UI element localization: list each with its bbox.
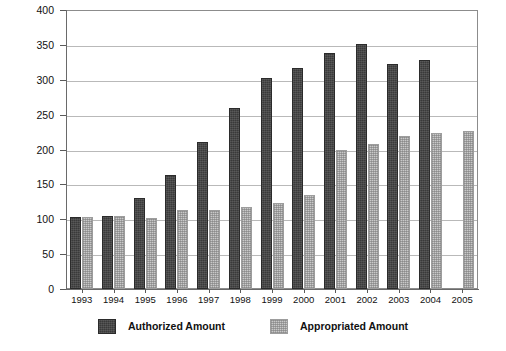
bar-authorized-2001 xyxy=(324,53,335,289)
y-tick-label-350: 350 xyxy=(6,40,54,50)
x-tick-mark-1999 xyxy=(272,289,273,293)
bar-appropriated-1994 xyxy=(114,216,125,289)
y-tick-mark-0 xyxy=(60,289,66,290)
x-tick-mark-2000 xyxy=(304,289,305,293)
bar-appropriated-2002 xyxy=(368,144,379,289)
bar-group xyxy=(419,10,442,289)
x-tick-label-2005: 2005 xyxy=(442,294,482,305)
bar-appropriated-1996 xyxy=(177,210,188,289)
legend-label-authorized: Authorized Amount xyxy=(128,320,225,332)
bar-appropriated-2001 xyxy=(336,150,347,289)
bar-group xyxy=(451,10,474,289)
x-tick-mark-1998 xyxy=(240,289,241,293)
bar-appropriated-2005 xyxy=(463,131,474,289)
bar-authorized-1997 xyxy=(197,142,208,289)
bar-appropriated-1998 xyxy=(241,207,252,289)
bar-authorized-1996 xyxy=(165,175,176,289)
y-tick-label-100: 100 xyxy=(6,214,54,224)
bar-authorized-1994 xyxy=(102,216,113,289)
bar-group xyxy=(102,10,125,289)
x-tick-mark-2004 xyxy=(430,289,431,293)
bar-authorized-1998 xyxy=(229,108,240,289)
bar-appropriated-1993 xyxy=(82,217,93,289)
y-tick-label-0: 0 xyxy=(6,284,54,294)
legend-entry-authorized: Authorized Amount xyxy=(98,318,225,334)
bar-group xyxy=(165,10,188,289)
y-tick-label-200: 200 xyxy=(6,145,54,155)
x-tick-mark-2001 xyxy=(335,289,336,293)
bottom-caption xyxy=(0,345,506,351)
bar-series-layer xyxy=(66,10,478,289)
legend-entry-appropriated: Appropriated Amount xyxy=(270,318,408,334)
bar-appropriated-2000 xyxy=(304,195,315,289)
bar-chart: 400 350 300 250 200 150 100 50 0 1993199… xyxy=(0,0,506,351)
y-tick-label-250: 250 xyxy=(6,110,54,120)
x-tick-mark-1997 xyxy=(209,289,210,293)
bar-appropriated-2003 xyxy=(399,136,410,289)
y-tick-label-150: 150 xyxy=(6,179,54,189)
bar-authorized-1999 xyxy=(261,78,272,289)
bar-group xyxy=(324,10,347,289)
y-tick-label-50: 50 xyxy=(6,249,54,259)
bar-authorized-1993 xyxy=(70,217,81,289)
legend-swatch-authorized-icon xyxy=(98,319,116,334)
bar-group xyxy=(261,10,284,289)
chart-legend: Authorized Amount Appropriated Amount xyxy=(98,318,428,338)
bar-authorized-2003 xyxy=(387,64,398,289)
bar-authorized-1995 xyxy=(134,198,145,289)
bar-group xyxy=(292,10,315,289)
x-tick-mark-2003 xyxy=(399,289,400,293)
bar-appropriated-2004 xyxy=(431,133,442,289)
x-tick-mark-1993 xyxy=(82,289,83,293)
bar-appropriated-1999 xyxy=(273,203,284,289)
legend-swatch-appropriated-icon xyxy=(270,319,288,334)
y-tick-label-300: 300 xyxy=(6,75,54,85)
bar-authorized-2002 xyxy=(356,44,367,289)
x-tick-mark-2005 xyxy=(462,289,463,293)
bar-appropriated-1997 xyxy=(209,210,220,289)
x-tick-mark-1994 xyxy=(114,289,115,293)
x-tick-mark-1995 xyxy=(145,289,146,293)
bar-group xyxy=(134,10,157,289)
bar-authorized-2000 xyxy=(292,68,303,289)
bar-authorized-2004 xyxy=(419,60,430,289)
y-tick-label-400: 400 xyxy=(6,5,54,15)
x-tick-mark-2002 xyxy=(367,289,368,293)
bar-group xyxy=(70,10,93,289)
bar-group xyxy=(229,10,252,289)
x-tick-mark-1996 xyxy=(177,289,178,293)
bar-group xyxy=(197,10,220,289)
bar-group xyxy=(356,10,379,289)
legend-label-appropriated: Appropriated Amount xyxy=(300,320,408,332)
bar-appropriated-1995 xyxy=(146,218,157,289)
bar-group xyxy=(387,10,410,289)
